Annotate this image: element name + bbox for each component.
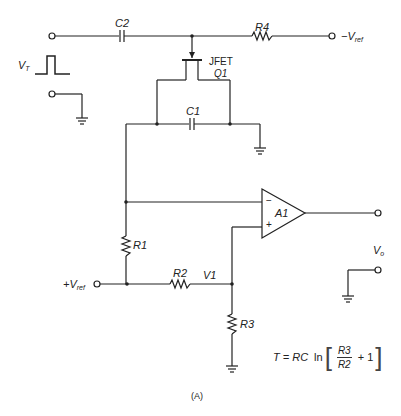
resistor-r4: [252, 32, 272, 40]
figure-caption: (A): [191, 391, 203, 401]
formula-denominator: R2: [338, 358, 351, 370]
pos-vref-sub: ref: [77, 284, 85, 291]
resistor-r1: [122, 236, 130, 256]
label-opamp-plus: +: [266, 220, 272, 230]
label-vo: Vo: [373, 245, 384, 257]
output-ground-terminal: [375, 267, 381, 273]
label-vt: VT: [18, 60, 30, 72]
timing-formula: T = RC ln [ R3 R2 + 1 ]: [273, 344, 385, 370]
label-opamp-minus: −: [266, 196, 272, 206]
neg-vref-text: −V: [341, 30, 355, 42]
junction-vref: [125, 282, 129, 286]
output-terminal: [375, 210, 381, 216]
label-a1: A1: [275, 208, 288, 219]
input-terminal-bottom: [49, 91, 55, 97]
formula-fraction: R3 R2: [337, 345, 352, 370]
pulse-icon: [35, 56, 70, 74]
label-c1: C1: [186, 106, 200, 117]
formula-lhs: T =: [273, 351, 289, 363]
label-jfet: JFET: [209, 57, 233, 67]
resistor-r2: [170, 280, 190, 288]
label-r1: R1: [133, 240, 147, 251]
pos-vref-terminal: [94, 281, 100, 287]
neg-vref-sub: ref: [355, 36, 363, 43]
jfet-q1: [182, 36, 202, 80]
label-neg-vref: −Vref: [341, 31, 363, 43]
ground-icon-c1: [254, 148, 266, 154]
formula-rc: RC: [292, 351, 308, 363]
vt-sub: T: [25, 65, 29, 72]
formula-plus-one: + 1: [358, 351, 374, 363]
input-terminal-top: [49, 33, 55, 39]
capacitor-c1: [190, 118, 194, 130]
label-v1: V1: [203, 270, 216, 281]
label-pos-vref: +Vref: [63, 279, 85, 291]
formula-open-bracket: [: [325, 344, 332, 370]
junction-c1-left: [155, 122, 159, 126]
label-c2: C2: [115, 18, 129, 29]
resistor-r3: [228, 314, 236, 334]
neg-vref-terminal: [329, 33, 335, 39]
formula-close-bracket: ]: [375, 344, 382, 370]
capacitor-c2: [120, 30, 124, 42]
ground-icon-output: [342, 296, 354, 302]
formula-numerator: R3: [337, 345, 352, 358]
vo-sub: o: [380, 250, 384, 257]
formula-ln: ln: [314, 351, 323, 363]
label-q1: Q1: [214, 69, 227, 79]
junction-c1-right: [228, 122, 232, 126]
label-r2: R2: [173, 268, 187, 279]
label-r4: R4: [255, 22, 269, 33]
pos-vref-text: +V: [63, 278, 77, 290]
ground-icon-input: [76, 118, 88, 124]
ground-icon-r3: [226, 366, 238, 372]
label-r3: R3: [240, 319, 254, 330]
